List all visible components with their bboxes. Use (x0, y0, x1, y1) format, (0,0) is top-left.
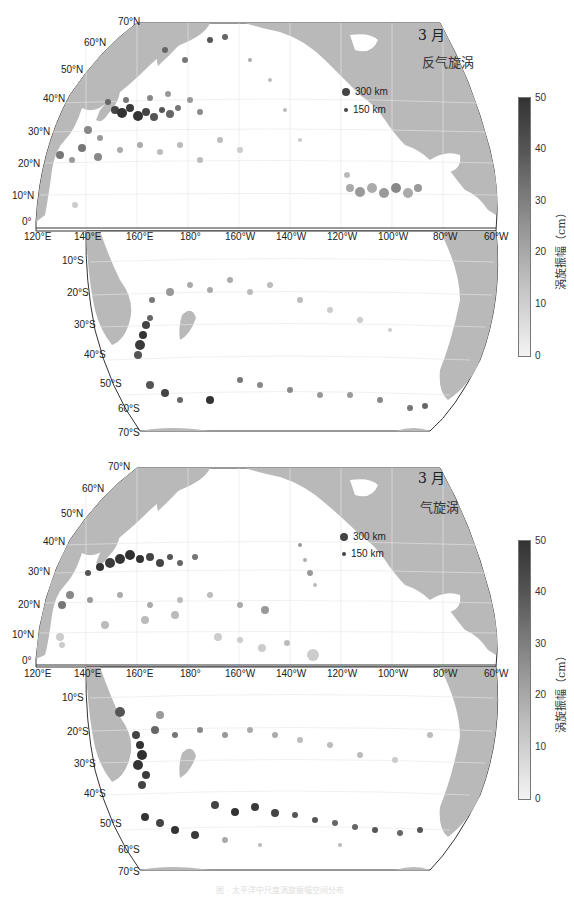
svg-text:40°N: 40°N (43, 93, 65, 104)
colorbar-tick: 10 (535, 741, 546, 752)
svg-text:20°N: 20°N (18, 158, 40, 169)
svg-text:160°E: 160°E (126, 668, 154, 679)
svg-text:140°W: 140°W (276, 231, 307, 242)
svg-text:10°N: 10°N (12, 190, 34, 201)
svg-text:30°N: 30°N (28, 126, 50, 137)
svg-text:60°N: 60°N (84, 37, 106, 48)
svg-text:30°S: 30°S (74, 319, 96, 330)
svg-text:180°: 180° (180, 668, 201, 679)
svg-text:0°: 0° (22, 216, 32, 227)
cyclonic-map: 70°N 60°N 50°N 40°N 30°N 20°N 10°N 0° 12… (0, 445, 574, 885)
figure-caption: 图 · 太平洋中尺度涡旋振幅空间分布 (150, 884, 410, 895)
legend-small-dot-icon (342, 552, 346, 556)
svg-text:50°S: 50°S (100, 818, 122, 829)
month-title: 3 月 (418, 24, 445, 44)
svg-text:0°: 0° (22, 655, 32, 666)
colorbar-tick: 50 (535, 92, 546, 103)
anticyclonic-map: 70°N 60°N 50°N 40°N 30°N 20°N 10°N 0° 12… (0, 0, 574, 445)
svg-text:80°W: 80°W (433, 231, 458, 242)
svg-text:40°S: 40°S (84, 788, 106, 799)
amplitude-colorbar (518, 97, 531, 357)
svg-text:60°N: 60°N (82, 483, 104, 494)
svg-text:10°S: 10°S (62, 692, 84, 703)
colorbar-tick: 10 (535, 298, 546, 309)
cyclonic-eddy-panel: 70°N 60°N 50°N 40°N 30°N 20°N 10°N 0° 12… (0, 445, 574, 885)
legend-large-dot-icon (342, 88, 350, 96)
svg-text:60°S: 60°S (118, 403, 140, 414)
svg-text:120°E: 120°E (24, 668, 52, 679)
svg-text:50°S: 50°S (100, 378, 122, 389)
svg-text:160°W: 160°W (225, 668, 256, 679)
amplitude-colorbar (518, 540, 531, 800)
eddy-type-title: 反气旋涡 (422, 52, 474, 71)
svg-text:70°N: 70°N (118, 16, 140, 27)
colorbar-tick: 0 (535, 350, 541, 361)
svg-text:40°S: 40°S (84, 349, 106, 360)
svg-text:160°W: 160°W (225, 231, 256, 242)
svg-text:40°N: 40°N (43, 536, 65, 547)
south-pacific-map (86, 231, 498, 431)
svg-text:70°S: 70°S (118, 866, 140, 877)
svg-text:70°N: 70°N (108, 461, 130, 472)
svg-text:50°N: 50°N (61, 64, 83, 75)
legend-large-dot-icon (340, 533, 348, 541)
svg-text:10°N: 10°N (12, 629, 34, 640)
svg-text:60°W: 60°W (484, 668, 509, 679)
month-title: 3 月 (418, 467, 445, 487)
eddy-type-title: 气旋涡 (420, 497, 459, 516)
svg-text:30°S: 30°S (74, 758, 96, 769)
colorbar-tick: 20 (535, 246, 546, 257)
legend-300km: 300 km (340, 531, 386, 542)
legend-300km: 300 km (342, 86, 388, 97)
anticyclonic-eddy-panel: 70°N 60°N 50°N 40°N 30°N 20°N 10°N 0° 12… (0, 0, 574, 445)
svg-text:160°E: 160°E (126, 231, 154, 242)
svg-text:80°W: 80°W (433, 668, 458, 679)
svg-text:60°S: 60°S (118, 844, 140, 855)
svg-text:140°E: 140°E (74, 231, 102, 242)
colorbar-tick: 40 (535, 586, 546, 597)
svg-text:120°E: 120°E (24, 231, 52, 242)
colorbar-tick: 40 (535, 143, 546, 154)
colorbar-tick: 30 (535, 195, 546, 206)
svg-text:140°W: 140°W (276, 668, 307, 679)
svg-text:30°N: 30°N (28, 566, 50, 577)
svg-text:20°N: 20°N (18, 599, 40, 610)
svg-text:120°W: 120°W (327, 668, 358, 679)
svg-text:70°S: 70°S (118, 427, 140, 438)
colorbar-label: 涡旋振幅（cm） (552, 207, 568, 290)
colorbar-tick: 20 (535, 689, 546, 700)
svg-text:180°: 180° (180, 231, 201, 242)
colorbar-tick: 50 (535, 535, 546, 546)
svg-text:50°N: 50°N (61, 508, 83, 519)
south-pacific-map (86, 667, 498, 870)
legend-150km: 150 km (344, 104, 386, 115)
svg-text:10°S: 10°S (62, 255, 84, 266)
svg-text:60°W: 60°W (484, 231, 509, 242)
colorbar-tick: 30 (535, 638, 546, 649)
legend-150km: 150 km (342, 548, 384, 559)
svg-text:120°W: 120°W (327, 231, 358, 242)
colorbar-tick: 0 (535, 793, 541, 804)
svg-text:20°S: 20°S (67, 726, 89, 737)
legend-small-dot-icon (344, 108, 348, 112)
svg-text:100°W: 100°W (378, 668, 409, 679)
colorbar-label: 涡旋振幅（cm） (552, 650, 568, 733)
svg-text:20°S: 20°S (67, 287, 89, 298)
svg-text:140°E: 140°E (74, 668, 102, 679)
svg-text:100°W: 100°W (378, 231, 409, 242)
